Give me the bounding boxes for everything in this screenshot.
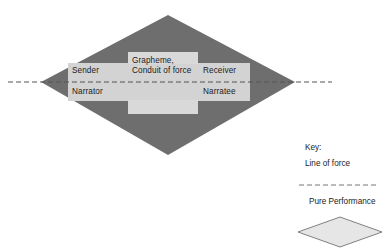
label-conduit-of-force: Conduit of force xyxy=(132,66,191,76)
label-grapheme: Grapheme, xyxy=(132,56,174,66)
diagram-graphics xyxy=(0,0,392,251)
label-sender: Sender xyxy=(72,66,99,76)
key-diamond-sample xyxy=(298,217,382,247)
diagram-canvas: Sender Narrator Receiver Narratee Graphe… xyxy=(0,0,392,251)
key-line-of-force-label: Line of force xyxy=(305,159,350,169)
label-narratee: Narratee xyxy=(203,87,236,97)
key-title: Key: xyxy=(305,143,321,153)
grapheme-box-lower xyxy=(128,100,198,114)
label-narrator: Narrator xyxy=(72,87,103,97)
label-receiver: Receiver xyxy=(203,66,236,76)
key-pure-performance-label: Pure Performance xyxy=(309,197,375,207)
